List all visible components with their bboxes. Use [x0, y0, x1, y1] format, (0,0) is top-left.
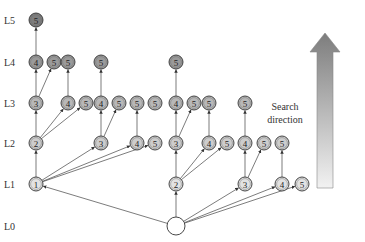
node-label: 5 [99, 58, 104, 68]
tree-node: 2 [169, 177, 183, 191]
node-label: 5 [34, 16, 39, 26]
tree-node: 4 [94, 96, 108, 110]
node-label: 5 [135, 99, 140, 109]
tree-node: 5 [187, 96, 201, 110]
node-label: 2 [174, 180, 179, 190]
node-label: 5 [66, 58, 71, 68]
node-label: 5 [174, 58, 179, 68]
node-label: 4 [243, 139, 248, 149]
tree-node: 5 [257, 136, 271, 150]
level-label: L4 [4, 57, 15, 68]
tree-node: 5 [112, 96, 126, 110]
node-label: 5 [225, 139, 230, 149]
search-direction-label-line1: Search [271, 101, 298, 112]
tree-node: 4 [169, 96, 183, 110]
tree-node: 5 [29, 13, 43, 27]
tree-node: 5 [61, 55, 75, 69]
level-labels: L5L4L3L2L1L0 [4, 15, 15, 232]
node-label: 4 [66, 99, 71, 109]
tree-edge [39, 69, 51, 97]
tree-node: 3 [169, 136, 183, 150]
node-label: 5 [280, 139, 285, 149]
node-label: 1 [34, 180, 39, 190]
node-circle [167, 217, 185, 235]
node-label: 3 [243, 180, 248, 190]
node-label: 2 [34, 139, 39, 149]
search-direction-indicator: Search direction [267, 33, 340, 188]
tree-node: 4 [238, 136, 252, 150]
tree-node: 5 [94, 55, 108, 69]
tree-node: 4 [130, 136, 144, 150]
level-label: L2 [4, 138, 15, 149]
node-label: 4 [135, 139, 140, 149]
node-label: 5 [52, 58, 57, 68]
node-label: 5 [192, 99, 197, 109]
node-label: 5 [207, 99, 212, 109]
tree-node: 4 [202, 136, 216, 150]
node-label: 5 [117, 99, 122, 109]
tree-node: 5 [202, 96, 216, 110]
tree-node: 4 [61, 96, 75, 110]
tree-edge [104, 110, 116, 137]
tree-node: 5 [148, 96, 162, 110]
node-label: 5 [153, 99, 158, 109]
node-label: 4 [99, 99, 104, 109]
tree-node: 5 [275, 136, 289, 150]
tree-edge [185, 186, 295, 223]
node-label: 4 [34, 58, 39, 68]
tree-node: 5 [295, 177, 309, 191]
tree-edge [184, 187, 275, 223]
node-label: 5 [243, 99, 248, 109]
tree-edges [36, 28, 295, 224]
tree-node: 5 [47, 55, 61, 69]
node-label: 3 [174, 139, 179, 149]
tree-node: 5 [148, 136, 162, 150]
tree-node: 3 [238, 177, 252, 191]
node-label: 3 [99, 139, 104, 149]
node-label: 5 [84, 99, 89, 109]
tree-node: 5 [79, 96, 93, 110]
tree-edge [43, 186, 167, 223]
node-label: 3 [34, 99, 39, 109]
root-node [167, 217, 185, 235]
tree-node: 4 [275, 177, 289, 191]
tree-edge [179, 110, 191, 137]
tree-edge [43, 145, 148, 181]
tree-edge [42, 146, 130, 182]
tree-node: 3 [94, 136, 108, 150]
search-direction-arrow-icon [310, 33, 340, 188]
node-label: 4 [174, 99, 179, 109]
node-label: 4 [207, 139, 212, 149]
tree-node: 3 [29, 96, 43, 110]
tree-edge [40, 109, 63, 138]
tree-node: 1 [29, 177, 43, 191]
search-direction-label-line2: direction [267, 114, 303, 125]
node-label: 5 [262, 139, 267, 149]
node-label: 5 [153, 139, 158, 149]
level-label: L3 [4, 98, 15, 109]
tree-node: 5 [130, 96, 144, 110]
search-tree-diagram: L5L4L3L2L1L0 123452345345455345455545554… [0, 0, 365, 242]
level-label: L5 [4, 15, 15, 26]
level-label: L0 [4, 221, 15, 232]
level-label: L1 [4, 179, 15, 190]
tree-node: 4 [29, 55, 43, 69]
tree-node: 2 [29, 136, 43, 150]
node-label: 5 [300, 180, 305, 190]
tree-node: 5 [238, 96, 252, 110]
tree-node: 5 [220, 136, 234, 150]
node-label: 4 [280, 180, 285, 190]
tree-edge [248, 150, 261, 178]
tree-node: 5 [169, 55, 183, 69]
